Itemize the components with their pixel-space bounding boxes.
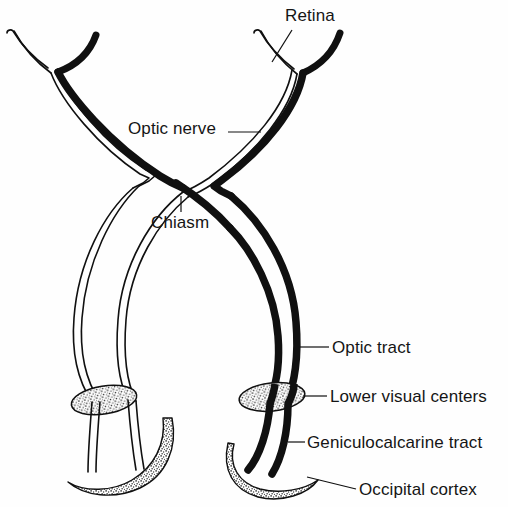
label-retina: Retina	[285, 7, 335, 24]
visual-pathway-diagram	[0, 0, 508, 507]
label-occipital-cortex: Occipital cortex	[359, 481, 477, 498]
right-optic-tract-solid	[230, 196, 297, 398]
right-retina-solid-arc	[303, 33, 340, 73]
right-geniculocalcarine-tract-solid	[248, 404, 288, 474]
left-retina-hollow-arc	[7, 30, 51, 73]
left-retina-solid-arc	[58, 35, 96, 72]
label-optic-nerve: Optic nerve	[128, 120, 216, 137]
right-optic-nerve-solid	[214, 73, 303, 196]
label-optic-tract: Optic tract	[332, 339, 411, 356]
leader-retina	[272, 30, 292, 62]
label-chiasm: Chiasm	[151, 214, 209, 231]
left-occipital-cortex	[68, 418, 174, 495]
label-lower-visual-centers: Lower visual centers	[330, 388, 487, 405]
label-geniculocalcarine-tract: Geniculocalcarine tract	[307, 434, 482, 451]
right-retina-hollow-arc	[254, 30, 297, 74]
visual-pathway-figure: Retina Optic nerve Chiasm Optic tract Lo…	[0, 0, 508, 507]
